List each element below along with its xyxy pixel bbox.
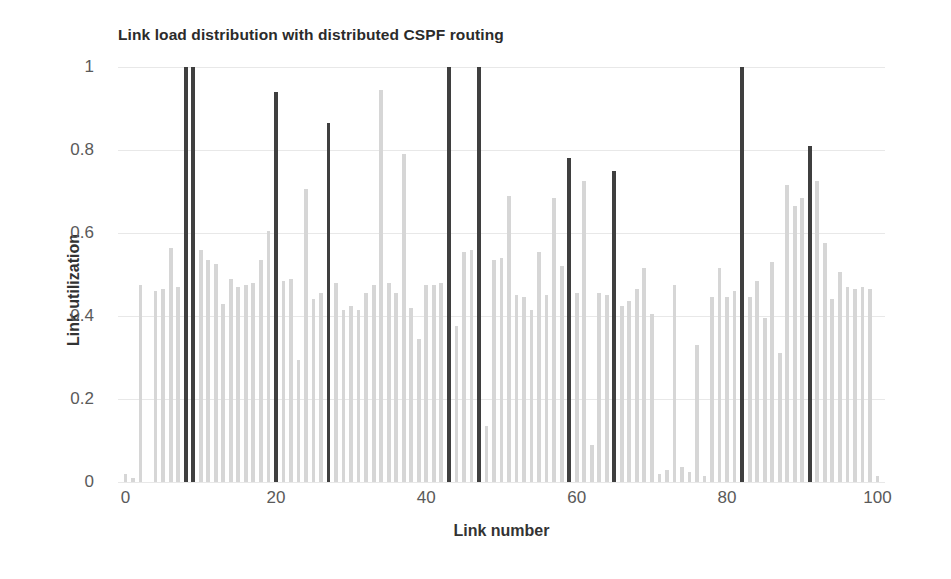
x-tick-label: 20 [266, 488, 285, 508]
gridline [118, 482, 885, 483]
bar [830, 299, 834, 482]
bar [627, 301, 631, 482]
bar [432, 285, 436, 482]
x-axis-title: Link number [118, 522, 885, 540]
y-tick-label: 1 [85, 57, 94, 77]
bar [485, 426, 489, 482]
bar [402, 154, 406, 482]
x-tick-label: 100 [863, 488, 891, 508]
bar [846, 287, 850, 482]
bar [492, 260, 496, 482]
bar [658, 474, 662, 482]
bar-highlight [184, 67, 188, 482]
bar [154, 291, 158, 482]
bar [582, 181, 586, 482]
bar [267, 231, 271, 482]
bar [124, 474, 128, 482]
bar [545, 295, 549, 482]
bar [417, 339, 421, 482]
bar [131, 478, 135, 482]
bar-highlight [327, 123, 331, 482]
bar [605, 295, 609, 482]
bar [642, 268, 646, 482]
x-axis-tick-labels: 020406080100 [118, 488, 885, 514]
chart-container: Link load distribution with distributed … [0, 0, 951, 579]
y-tick-label: 0.4 [70, 306, 94, 326]
bar-highlight [477, 67, 481, 482]
bar [244, 285, 248, 482]
bar [161, 289, 165, 482]
bar [515, 295, 519, 482]
bar [861, 287, 865, 482]
bar [763, 318, 767, 482]
bar-highlight [191, 67, 195, 482]
bar [379, 90, 383, 482]
bar [793, 206, 797, 482]
y-axis-tick-labels: 00.20.40.60.81 [0, 67, 108, 482]
bar [199, 250, 203, 482]
bar [409, 308, 413, 482]
bar [522, 297, 526, 482]
bar [552, 198, 556, 482]
bar [733, 291, 737, 482]
bar [650, 314, 654, 482]
bar [394, 293, 398, 482]
bar [251, 283, 255, 482]
bar [590, 445, 594, 482]
y-tick-label: 0.6 [70, 223, 94, 243]
bar [575, 293, 579, 482]
x-tick-label: 60 [567, 488, 586, 508]
x-tick-label: 80 [718, 488, 737, 508]
chart-title: Link load distribution with distributed … [118, 26, 504, 44]
bar [357, 310, 361, 482]
bar [665, 470, 669, 482]
bar [695, 345, 699, 482]
bar [800, 198, 804, 482]
y-tick-label: 0.2 [70, 389, 94, 409]
bar [785, 185, 789, 482]
bar [214, 264, 218, 482]
bar-highlight [447, 67, 451, 482]
bar [282, 281, 286, 482]
bar [597, 293, 601, 482]
bar [868, 289, 872, 482]
bar [304, 189, 308, 482]
bar [439, 283, 443, 482]
bar [838, 272, 842, 482]
bar [297, 360, 301, 482]
y-tick-label: 0.8 [70, 140, 94, 160]
bar [853, 289, 857, 482]
y-tick-label: 0 [85, 472, 94, 492]
bar [748, 297, 752, 482]
bar [530, 310, 534, 482]
bar [560, 266, 564, 482]
bar [688, 472, 692, 482]
bar [206, 260, 210, 482]
bar [455, 326, 459, 482]
bar [349, 306, 353, 482]
bar [537, 252, 541, 482]
bar-highlight [567, 158, 571, 482]
bar [236, 287, 240, 482]
bar [387, 283, 391, 482]
bar [462, 252, 466, 482]
bar [312, 299, 316, 482]
bar [259, 260, 263, 482]
x-tick-label: 40 [417, 488, 436, 508]
bar [823, 243, 827, 482]
bar [289, 279, 293, 482]
bar [176, 287, 180, 482]
bar [470, 250, 474, 482]
bar [673, 285, 677, 482]
bar [334, 283, 338, 482]
bar [139, 285, 143, 482]
bar [718, 268, 722, 482]
bar-highlight [612, 171, 616, 482]
bar [364, 293, 368, 482]
bar-highlight [808, 146, 812, 482]
bar [169, 248, 173, 482]
bar [703, 476, 707, 482]
bar [680, 467, 684, 482]
bar [424, 285, 428, 482]
bar-series [118, 67, 885, 482]
